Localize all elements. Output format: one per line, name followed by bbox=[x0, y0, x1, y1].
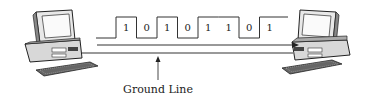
bit-label: 1 bbox=[123, 22, 129, 33]
bit-label: 0 bbox=[246, 22, 252, 33]
diagram-canvas: 10101101 Ground Line bbox=[0, 0, 367, 99]
bit-label: 1 bbox=[267, 22, 273, 33]
pointer-arrowhead-icon bbox=[156, 56, 161, 62]
digital-signal: 10101101 bbox=[96, 17, 288, 38]
bit-label: 1 bbox=[226, 22, 232, 33]
bit-label: 1 bbox=[164, 22, 170, 33]
ground-line-label: Ground Line bbox=[123, 83, 193, 96]
bit-label: 0 bbox=[185, 22, 191, 33]
bit-label: 0 bbox=[144, 22, 150, 33]
bit-label: 1 bbox=[205, 22, 211, 33]
left-computer-icon bbox=[25, 10, 98, 76]
right-computer-icon bbox=[282, 10, 350, 74]
